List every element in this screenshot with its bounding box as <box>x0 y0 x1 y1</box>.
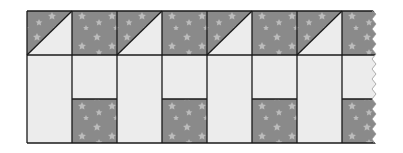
block-print-bottom-1 <box>72 99 117 143</box>
block-print-bottom-3 <box>252 99 297 143</box>
block-print-top-2 <box>162 11 207 55</box>
block-print-top-3 <box>252 11 297 55</box>
block-print-top-4 <box>342 11 387 55</box>
block-hst-2 <box>117 11 162 55</box>
block-hst-4 <box>297 11 342 55</box>
block-print-bottom-4 <box>342 99 387 143</box>
block-hst-3 <box>207 11 252 55</box>
quilt-border-diagram <box>0 0 403 153</box>
block-hst-1 <box>27 11 72 55</box>
quilt-strip <box>27 11 390 143</box>
block-print-top-1 <box>72 11 117 55</box>
block-print-bottom-2 <box>162 99 207 143</box>
